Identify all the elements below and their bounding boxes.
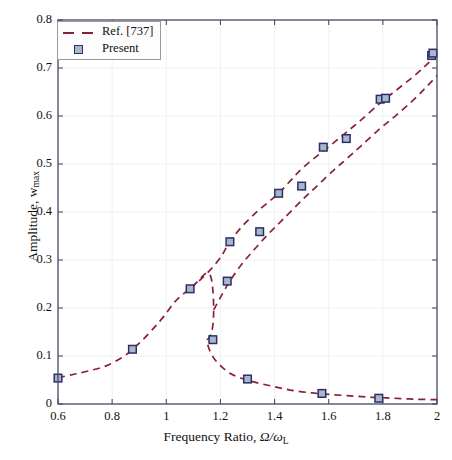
data-point-marker bbox=[429, 49, 437, 57]
legend-label-ref: Ref. [737] bbox=[102, 24, 153, 39]
x-tick-label: 1.2 bbox=[198, 409, 242, 424]
y-tick-label: 0.1 bbox=[10, 348, 52, 363]
chart-plot-area bbox=[0, 0, 452, 460]
data-curve-upper-second bbox=[214, 76, 437, 310]
x-tick-label: 1.6 bbox=[307, 409, 351, 424]
x-tick-label: 1 bbox=[144, 409, 188, 424]
x-tick-label: 0.6 bbox=[36, 409, 80, 424]
data-point-marker bbox=[256, 228, 264, 236]
legend-entry-present: Present bbox=[58, 41, 162, 59]
data-point-marker bbox=[375, 394, 383, 402]
x-axis-label-text: Frequency Ratio, bbox=[163, 429, 259, 444]
legend-entry-ref: Ref. [737] bbox=[58, 24, 162, 42]
data-point-marker bbox=[318, 390, 326, 398]
x-axis-symbol: Ω/ω bbox=[260, 429, 283, 444]
data-point-marker bbox=[186, 285, 194, 293]
y-tick-label: 0 bbox=[10, 396, 52, 411]
data-point-marker bbox=[275, 189, 283, 197]
y-tick-label: 0.8 bbox=[10, 12, 52, 27]
data-point-marker bbox=[298, 182, 306, 190]
x-axis-subscript: L bbox=[283, 436, 289, 446]
x-tick-label: 1.8 bbox=[361, 409, 405, 424]
y-axis-subscript: max bbox=[31, 171, 41, 187]
figure-canvas: 0.60.811.21.41.61.8200.10.20.30.40.50.60… bbox=[0, 0, 452, 460]
chart-legend: Ref. [737] Present bbox=[57, 21, 161, 60]
x-tick-label: 0.8 bbox=[90, 409, 134, 424]
x-tick-label: 2 bbox=[415, 409, 452, 424]
data-point-marker bbox=[343, 135, 351, 143]
data-point-marker bbox=[320, 143, 328, 151]
legend-label-present: Present bbox=[102, 41, 139, 56]
data-point-marker bbox=[244, 375, 252, 383]
data-point-marker bbox=[223, 277, 231, 285]
data-point-marker bbox=[209, 336, 217, 344]
data-point-marker bbox=[226, 238, 234, 246]
data-point-marker bbox=[129, 345, 137, 353]
data-point-marker bbox=[382, 94, 390, 102]
square-marker-swatch-icon bbox=[74, 45, 83, 54]
x-tick-label: 1.4 bbox=[253, 409, 297, 424]
y-axis-label: Amplitude, wmax bbox=[25, 91, 42, 341]
x-axis-label: Frequency Ratio, Ω/ωL bbox=[0, 429, 452, 446]
data-curve-upper-resonant bbox=[190, 55, 437, 289]
y-tick-label: 0.7 bbox=[10, 60, 52, 75]
y-axis-label-text: Amplitude, w bbox=[25, 187, 40, 261]
